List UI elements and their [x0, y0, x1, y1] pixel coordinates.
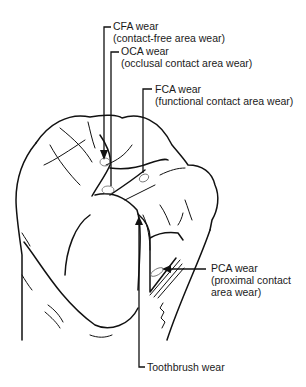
crown-outline: [36, 115, 218, 230]
fca-label: FCA wear (functional contact area wear): [155, 83, 293, 107]
root-left-outline: [16, 143, 36, 340]
cfa-subtitle: (contact-free area wear): [113, 32, 225, 44]
oca-leader: [111, 52, 119, 186]
oca-subtitle: (occlusal contact area wear): [121, 57, 252, 69]
pca-title: PCA wear: [211, 262, 291, 274]
oca-facet: [102, 186, 114, 194]
cfa-facet: [100, 158, 110, 166]
fca-title: FCA wear: [155, 83, 293, 95]
cfa-title: CFA wear: [113, 20, 225, 32]
cfa-label: CFA wear (contact-free area wear): [113, 20, 225, 44]
pca-subtitle-2: area wear): [211, 286, 291, 298]
oca-label: OCA wear (occlusal contact area wear): [121, 45, 252, 69]
fca-subtitle: (functional contact area wear): [155, 95, 293, 107]
oca-title: OCA wear: [121, 45, 252, 57]
toothbrush-label: Toothbrush wear: [147, 361, 225, 373]
root-right-outline: [167, 230, 210, 340]
pca-subtitle-1: (proximal contact: [211, 274, 291, 286]
tooth-wear-diagram: CFA wear (contact-free area wear) OCA we…: [0, 0, 306, 387]
toothbrush-title: Toothbrush wear: [147, 361, 225, 373]
pca-label: PCA wear (proximal contact area wear): [211, 262, 291, 298]
cfa-leader: [104, 27, 111, 158]
fca-leader: [143, 89, 152, 173]
